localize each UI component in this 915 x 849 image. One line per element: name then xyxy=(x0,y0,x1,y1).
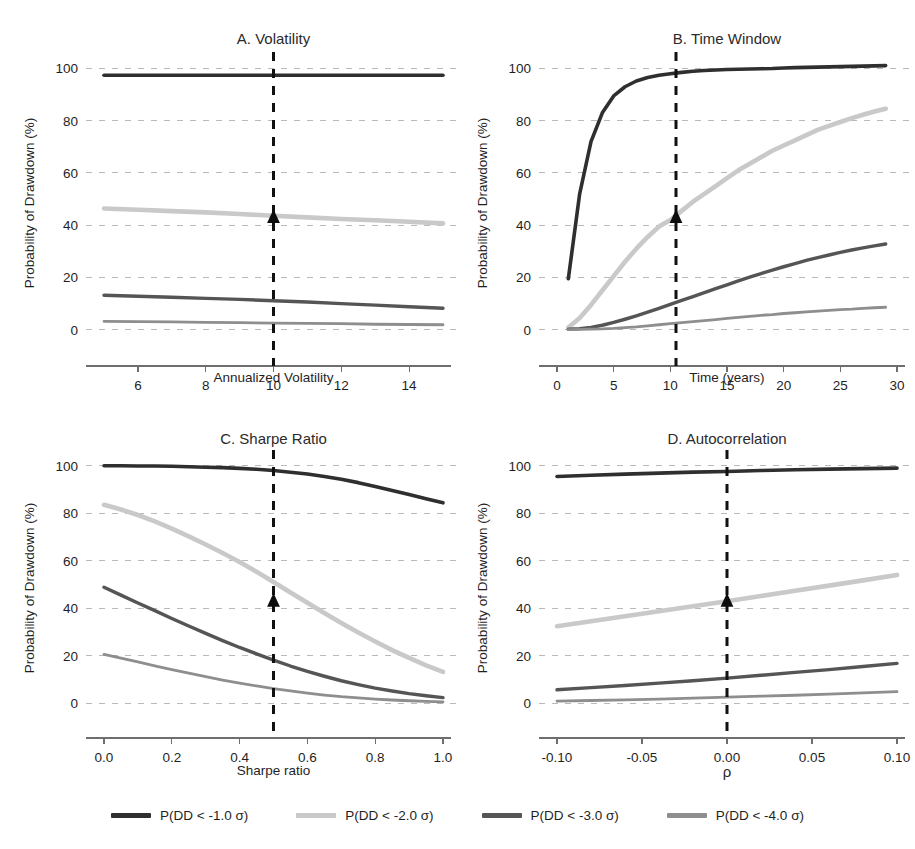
x-tick-label: 30 xyxy=(889,378,904,393)
y-tick-label: 40 xyxy=(516,601,531,616)
y-tick-label: 40 xyxy=(516,218,531,233)
drawdown-probability-figure: 02040608010068101214A. VolatilityAnnuali… xyxy=(0,0,915,849)
y-tick-label: 80 xyxy=(516,114,531,129)
x-tick-label: -0.10 xyxy=(542,750,573,765)
x-axis-title: Annualized Volatility xyxy=(213,370,333,385)
x-axis-title: Sharpe ratio xyxy=(237,763,311,778)
legend-line-swatch xyxy=(667,813,707,818)
panel-title: A. Volatility xyxy=(237,30,311,47)
x-tick-label: 5 xyxy=(610,378,618,393)
y-tick-label: 0 xyxy=(523,696,531,711)
legend-label: P(DD < -4.0 σ) xyxy=(716,808,804,823)
y-tick-label: 40 xyxy=(63,218,78,233)
panel-volatility: 02040608010068101214A. VolatilityAnnuali… xyxy=(0,0,457,400)
x-tick-label: 0.8 xyxy=(366,750,385,765)
baseline-marker-icon xyxy=(267,593,280,607)
panel-time-window: 020406080100051015202530B. Time WindowTi… xyxy=(457,0,915,400)
y-tick-label: 100 xyxy=(508,459,531,474)
legend-item: P(DD < -1.0 σ) xyxy=(111,808,248,823)
x-tick-label: 6 xyxy=(134,378,142,393)
series-line xyxy=(568,307,885,329)
y-axis-title: Probability of Drawdown (%) xyxy=(475,118,490,288)
y-tick-label: 20 xyxy=(516,649,531,664)
chart-b: 020406080100051015202530B. Time WindowTi… xyxy=(457,0,915,400)
x-axis-title: ρ xyxy=(723,763,732,780)
panel-title: C. Sharpe Ratio xyxy=(220,430,327,447)
x-tick-label: 12 xyxy=(334,378,349,393)
y-tick-label: 100 xyxy=(55,61,78,76)
chart-c: 0204060801000.00.20.40.60.81.0C. Sharpe … xyxy=(0,400,457,795)
x-tick-label: 1.0 xyxy=(434,750,453,765)
figure-legend: P(DD < -1.0 σ)P(DD < -2.0 σ)P(DD < -3.0 … xyxy=(0,795,915,835)
y-tick-label: 100 xyxy=(55,459,78,474)
y-tick-label: 80 xyxy=(516,506,531,521)
y-axis-title: Probability of Drawdown (%) xyxy=(475,503,490,673)
series-line xyxy=(568,244,885,329)
y-tick-label: 60 xyxy=(516,166,531,181)
x-tick-label: 0 xyxy=(553,378,561,393)
y-tick-label: 60 xyxy=(63,554,78,569)
x-tick-label: 0.0 xyxy=(95,750,114,765)
series-line xyxy=(568,66,885,279)
x-tick-label: 14 xyxy=(402,378,418,393)
panel-autocorrelation: 020406080100-0.10-0.050.000.050.10D. Aut… xyxy=(457,400,915,795)
legend-label: P(DD < -1.0 σ) xyxy=(160,808,248,823)
x-tick-label: 20 xyxy=(776,378,791,393)
y-tick-label: 20 xyxy=(516,270,531,285)
y-tick-label: 100 xyxy=(508,61,531,76)
legend-line-swatch xyxy=(482,813,522,818)
y-axis-title: Probability of Drawdown (%) xyxy=(22,503,37,673)
legend-item: P(DD < -2.0 σ) xyxy=(296,808,433,823)
x-tick-label: 0.05 xyxy=(799,750,825,765)
x-tick-label: 10 xyxy=(663,378,678,393)
chart-d: 020406080100-0.10-0.050.000.050.10D. Aut… xyxy=(457,400,915,795)
y-tick-label: 0 xyxy=(70,323,78,338)
x-tick-label: 8 xyxy=(202,378,210,393)
x-axis-title: Time (years) xyxy=(689,370,764,385)
panel-title: B. Time Window xyxy=(673,30,782,47)
panel-title: D. Autocorrelation xyxy=(667,430,786,447)
series-line xyxy=(568,109,885,328)
y-tick-label: 80 xyxy=(63,114,78,129)
legend-item: P(DD < -4.0 σ) xyxy=(667,808,804,823)
x-tick-label: 25 xyxy=(833,378,848,393)
y-tick-label: 60 xyxy=(63,166,78,181)
x-tick-label: 0.10 xyxy=(884,750,910,765)
legend-label: P(DD < -2.0 σ) xyxy=(345,808,433,823)
y-tick-label: 20 xyxy=(63,270,78,285)
y-tick-label: 0 xyxy=(70,696,78,711)
y-axis-title: Probability of Drawdown (%) xyxy=(22,118,37,288)
y-tick-label: 80 xyxy=(63,506,78,521)
x-tick-label: -0.05 xyxy=(627,750,658,765)
y-tick-label: 40 xyxy=(63,601,78,616)
panel-sharpe-ratio: 0204060801000.00.20.40.60.81.0C. Sharpe … xyxy=(0,400,457,795)
legend-line-swatch xyxy=(296,813,336,818)
y-tick-label: 20 xyxy=(63,649,78,664)
legend-item: P(DD < -3.0 σ) xyxy=(482,808,619,823)
x-tick-label: 0.2 xyxy=(162,750,181,765)
y-tick-label: 60 xyxy=(516,554,531,569)
chart-a: 02040608010068101214A. VolatilityAnnuali… xyxy=(0,0,457,400)
legend-label: P(DD < -3.0 σ) xyxy=(531,808,619,823)
legend-line-swatch xyxy=(111,813,151,818)
y-tick-label: 0 xyxy=(523,323,531,338)
